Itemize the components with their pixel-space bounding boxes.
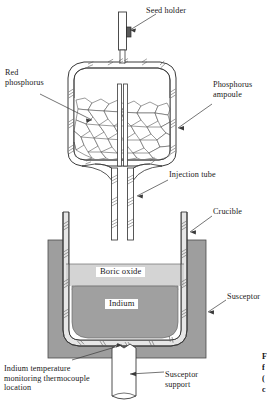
label-thermocouple-location: Indium temperature monitoring thermocoup… [4, 364, 90, 393]
caption-fragment-line3: ( [262, 374, 265, 385]
seed-holder-rod [119, 12, 132, 64]
phosphorus-ampoule [68, 59, 176, 180]
label-indium: Indium [105, 299, 138, 309]
label-susceptor-support: Susceptor support [165, 370, 198, 389]
caption-fragment-line2: f [262, 363, 265, 374]
label-boric-oxide: Boric oxide [96, 267, 145, 277]
susceptor-support [112, 344, 136, 399]
seed-crystal [127, 27, 132, 37]
red-phosphorus-granules [74, 98, 170, 160]
label-phosphorus-ampoule: Phosphorus ampoule [213, 80, 252, 99]
apparatus-diagram [0, 0, 272, 403]
label-crucible: Crucible [213, 207, 242, 217]
label-seed-holder: Seed holder [146, 6, 186, 16]
label-red-phosphorus: Red phosphorus [5, 68, 44, 87]
figure-root: Seed holder Red phosphorus Phosphorus am… [0, 0, 272, 403]
caption-fragment-line1: F [262, 352, 267, 363]
caption-fragment-line4: c [262, 385, 266, 396]
indium-melt [72, 286, 178, 338]
crucible [63, 212, 187, 347]
label-susceptor: Susceptor [227, 292, 260, 302]
label-injection-tube: Injection tube [169, 170, 216, 180]
